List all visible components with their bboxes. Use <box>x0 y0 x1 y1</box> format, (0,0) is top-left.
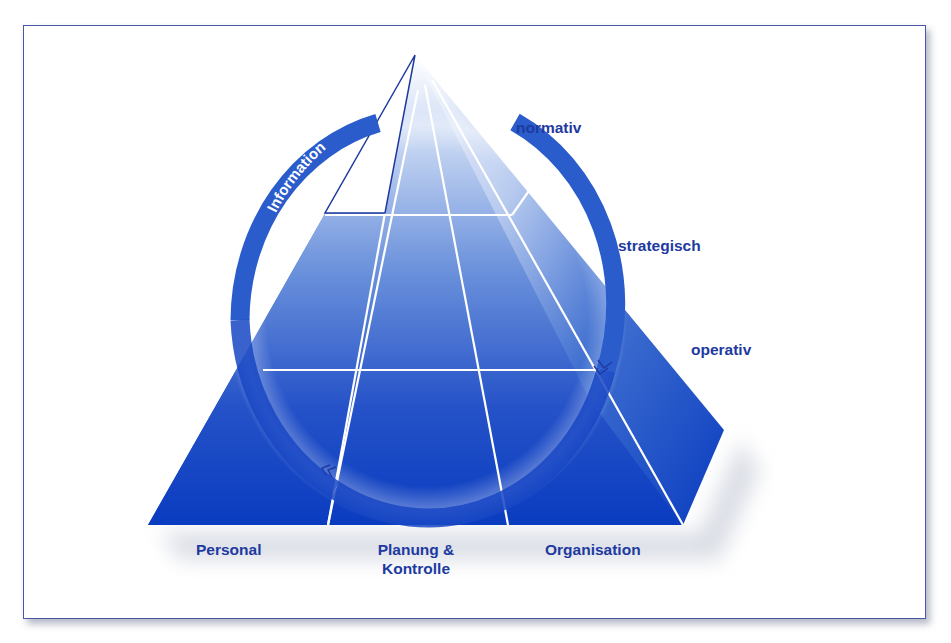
level-label-normativ: normativ <box>516 118 581 137</box>
pyramid-diagram: Information <box>0 0 951 643</box>
level-label-operativ: operativ <box>691 340 751 359</box>
level-label-strategisch: strategisch <box>618 236 701 255</box>
dimension-label-personal: Personal <box>196 540 261 559</box>
dimension-label-planung-line2: Kontrolle <box>370 559 462 578</box>
dimension-label-organisation: Organisation <box>545 540 641 559</box>
dimension-label-planung-line1: Planung & <box>370 540 462 559</box>
dimension-label-planung: Planung & Kontrolle <box>370 540 462 578</box>
